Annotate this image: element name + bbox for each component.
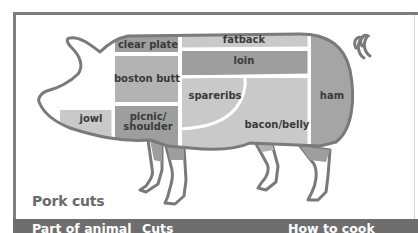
column-header-part-of-animal: Part of animal [32, 221, 132, 233]
tail-icon [355, 35, 370, 58]
label-jowl: jowl [79, 113, 103, 124]
label-ham: ham [320, 90, 344, 101]
diagram-title: Pork cuts [32, 193, 104, 209]
label-bacon-belly: bacon/belly [245, 119, 310, 130]
label-boston-butt: boston butt [114, 73, 180, 84]
label-spareribs: spareribs [188, 90, 241, 101]
column-header-cuts: Cuts [142, 221, 174, 233]
label-clear-plate: clear plate [118, 39, 178, 50]
label-shoulder: shoulder [123, 121, 172, 132]
label-loin: loin [234, 55, 255, 66]
label-fatback: fatback [223, 34, 266, 45]
column-header-how-to-cook: How to cook [288, 221, 375, 233]
